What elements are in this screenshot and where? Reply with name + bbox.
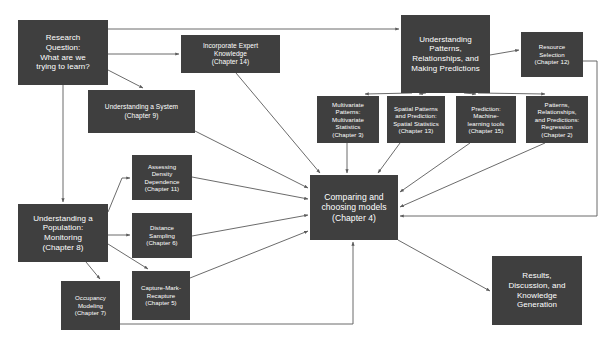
node-occupancy-modeling[interactable]: Occupancy Modeling (Chapter 7) xyxy=(61,281,120,330)
node-label-multivariate-patterns: Multivariate Patterns: Multivariate Stat… xyxy=(332,101,364,138)
edge-distance-sampling-to-comparing-choosing-models xyxy=(192,215,308,236)
node-label-prediction-machine-learning: Prediction: Machine- learning tools (Cha… xyxy=(468,105,505,135)
node-distance-sampling[interactable]: Distance Sampling (Chapter 6) xyxy=(132,213,192,258)
edge-understanding-patterns-to-prediction-machine-learning xyxy=(464,93,476,94)
edge-incorporate-expert-knowledge-to-comparing-choosing-models xyxy=(236,73,320,173)
node-multivariate-patterns[interactable]: Multivariate Patterns: Multivariate Stat… xyxy=(317,96,379,143)
edge-understanding-patterns-to-patterns-regression xyxy=(478,93,545,94)
node-label-distance-sampling: Distance Sampling (Chapter 6) xyxy=(146,224,177,246)
edge-understanding-a-population-to-occupancy-modeling xyxy=(86,262,100,279)
node-resource-selection[interactable]: Resource Selection (Chapter 12) xyxy=(521,32,583,77)
node-assessing-density-dependence[interactable]: Assessing Density Dependence (Chapter 11… xyxy=(132,155,192,200)
node-understanding-a-population[interactable]: Understanding a Population: Monitoring (… xyxy=(18,204,108,262)
node-label-understanding-a-system: Understanding a System (Chapter 9) xyxy=(105,103,178,119)
node-label-patterns-regression: Patterns, Relationships, and Predictions… xyxy=(535,101,580,138)
node-label-understanding-a-population: Understanding a Population: Monitoring (… xyxy=(33,214,92,253)
edge-spatial-patterns-to-comparing-choosing-models xyxy=(378,143,400,173)
node-label-comparing-choosing-models: Comparing and choosing models (Chapter 4… xyxy=(321,192,386,223)
node-label-research-question: Research Question: What are we trying to… xyxy=(36,33,90,72)
node-label-incorporate-expert-knowledge: Incorporate Expert Knowledge (Chapter 14… xyxy=(203,42,258,66)
node-label-capture-mark-recapture: Capture-Mark- Recapture (Chapter 5) xyxy=(141,284,181,306)
edge-comparing-choosing-models-to-results-discussion xyxy=(398,240,490,291)
edge-research-question-to-understanding-a-system xyxy=(108,70,143,88)
edge-understanding-a-population-to-assessing-density-dependence xyxy=(108,178,130,212)
edge-patterns-regression-to-comparing-choosing-models xyxy=(400,143,545,207)
flowchart-canvas: Research Question: What are we trying to… xyxy=(0,0,612,351)
node-incorporate-expert-knowledge[interactable]: Incorporate Expert Knowledge (Chapter 14… xyxy=(181,35,280,73)
node-label-assessing-density-dependence: Assessing Density Dependence (Chapter 11… xyxy=(144,163,179,193)
node-capture-mark-recapture[interactable]: Capture-Mark- Recapture (Chapter 5) xyxy=(132,271,190,320)
node-label-spatial-patterns: Spatial Patterns and Prediction: Spatial… xyxy=(393,105,439,135)
edge-understanding-patterns-to-resource-selection xyxy=(490,50,519,55)
node-label-occupancy-modeling: Occupancy Modeling (Chapter 7) xyxy=(75,294,106,316)
edge-understanding-a-system-to-comparing-choosing-models xyxy=(195,131,308,188)
node-research-question[interactable]: Research Question: What are we trying to… xyxy=(18,20,108,85)
node-understanding-patterns[interactable]: Understanding Patterns, Relationships, a… xyxy=(401,15,490,93)
edge-understanding-patterns-to-multivariate-patterns xyxy=(365,93,412,94)
edge-prediction-machine-learning-to-comparing-choosing-models xyxy=(400,143,470,192)
node-spatial-patterns[interactable]: Spatial Patterns and Prediction: Spatial… xyxy=(387,96,445,143)
node-label-results-discussion: Results, Discussion, and Knowledge Gener… xyxy=(508,271,565,310)
node-label-understanding-patterns: Understanding Patterns, Relationships, a… xyxy=(411,35,480,74)
edge-capture-mark-recapture-to-comparing-choosing-models xyxy=(190,231,308,278)
edge-assessing-density-dependence-to-comparing-choosing-models xyxy=(192,177,308,199)
node-prediction-machine-learning[interactable]: Prediction: Machine- learning tools (Cha… xyxy=(456,96,516,143)
node-understanding-a-system[interactable]: Understanding a System (Chapter 9) xyxy=(88,90,195,133)
node-patterns-regression[interactable]: Patterns, Relationships, and Predictions… xyxy=(526,96,588,143)
node-label-resource-selection: Resource Selection (Chapter 12) xyxy=(535,43,570,65)
node-comparing-choosing-models[interactable]: Comparing and choosing models (Chapter 4… xyxy=(310,175,398,240)
node-results-discussion[interactable]: Results, Discussion, and Knowledge Gener… xyxy=(492,256,582,325)
edge-understanding-patterns-to-spatial-patterns xyxy=(419,93,426,94)
